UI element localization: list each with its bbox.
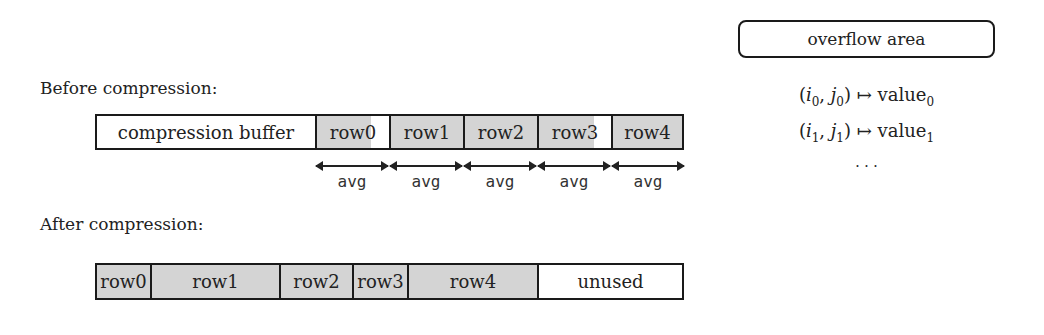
avg-label: avg	[463, 172, 537, 191]
cell-label: row3	[552, 122, 598, 143]
after-row4-cell: row4	[409, 265, 539, 298]
before-row0-cell: row0	[317, 116, 391, 148]
cell-label: row2	[478, 122, 524, 143]
double-arrow-icon	[390, 165, 462, 167]
before-row4-cell: row4	[613, 116, 682, 148]
after-buffer: row0 row1 row2 row3 row4 unused	[95, 263, 684, 300]
maps-to-icon: ↦	[857, 120, 872, 141]
overflow-entry: (i1, j1) ↦ value1	[738, 120, 995, 145]
before-row3-cell: row3	[539, 116, 613, 148]
compression-buffer-cell: compression buffer	[97, 116, 317, 148]
cell-label: row3	[357, 271, 403, 292]
avg-label: avg	[537, 172, 611, 191]
value-label: value	[878, 84, 927, 105]
maps-to-icon: ↦	[857, 84, 872, 105]
cell-label: row2	[293, 271, 339, 292]
cell-label: row1	[404, 122, 450, 143]
avg-label: avg	[611, 172, 685, 191]
before-row2-cell: row2	[465, 116, 539, 148]
after-row0-cell: row0	[97, 265, 152, 298]
double-arrow-icon	[464, 165, 536, 167]
value-label: value	[878, 120, 927, 141]
cell-label: row4	[450, 271, 496, 292]
value-sub: 1	[926, 131, 934, 145]
double-arrow-icon	[538, 165, 610, 167]
after-row1-cell: row1	[152, 265, 281, 298]
double-arrow-icon	[612, 165, 684, 167]
key-i-sub: 0	[812, 95, 820, 109]
before-compression-heading: Before compression:	[40, 78, 217, 98]
avg-label: avg	[315, 172, 389, 191]
before-row1-cell: row1	[391, 116, 465, 148]
double-arrow-icon	[316, 165, 388, 167]
value-sub: 0	[926, 95, 934, 109]
avg-label: avg	[389, 172, 463, 191]
key-i-sub: 1	[812, 131, 820, 145]
unused-cell: unused	[539, 265, 682, 298]
cell-label: row0	[100, 271, 146, 292]
after-compression-heading: After compression:	[40, 214, 203, 234]
overflow-area-box: overflow area	[738, 20, 995, 58]
before-buffer: compression buffer row0 row1 row2 row3 r…	[95, 114, 684, 150]
overflow-entry: (i0, j0) ↦ value0	[738, 84, 995, 109]
cell-label: row4	[624, 122, 670, 143]
key-j-sub: 0	[836, 95, 844, 109]
cell-label: row1	[192, 271, 238, 292]
cell-label: row0	[330, 122, 376, 143]
after-row2-cell: row2	[281, 265, 354, 298]
cell-label: compression buffer	[118, 122, 294, 143]
cell-label: unused	[577, 271, 643, 292]
key-j-sub: 1	[836, 131, 844, 145]
after-row3-cell: row3	[354, 265, 409, 298]
overflow-ellipsis: · · ·	[738, 158, 995, 174]
overflow-area-title: overflow area	[807, 29, 925, 49]
